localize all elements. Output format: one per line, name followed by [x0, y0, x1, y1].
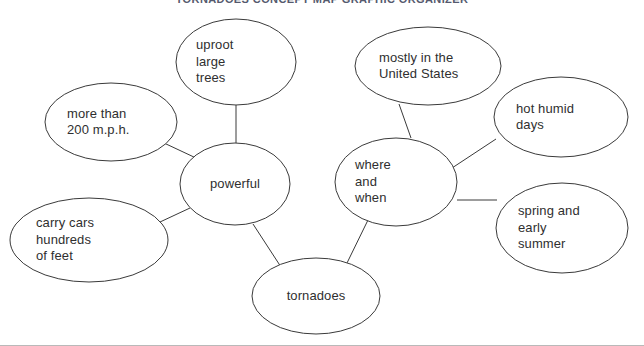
- node-layer: [10, 19, 628, 334]
- node-bubble-where-and-when[interactable]: [335, 138, 457, 226]
- node-bubble-mostly-in-the-united-states[interactable]: [355, 27, 501, 105]
- connector-line: [399, 104, 411, 138]
- node-bubble-uproot-large-trees[interactable]: [176, 19, 296, 105]
- connector-line: [452, 139, 496, 168]
- connector-line: [347, 220, 368, 263]
- node-bubble-more-than-200-mph[interactable]: [45, 83, 177, 161]
- connector-line: [164, 143, 196, 158]
- node-bubble-spring-and-early-summer[interactable]: [496, 183, 628, 273]
- node-bubble-tornadoes[interactable]: [252, 258, 380, 334]
- connector-line: [160, 208, 190, 222]
- node-bubble-carry-cars-hundreds-of-feet[interactable]: [10, 198, 168, 282]
- node-bubble-powerful[interactable]: [180, 143, 290, 225]
- concept-map-graphic: [0, 0, 644, 346]
- connector-line: [253, 224, 281, 267]
- node-bubble-hot-humid-days[interactable]: [494, 77, 628, 157]
- diagram-canvas: TORNADOES CONCEPT MAP GRAPHIC ORGANIZER …: [0, 0, 644, 346]
